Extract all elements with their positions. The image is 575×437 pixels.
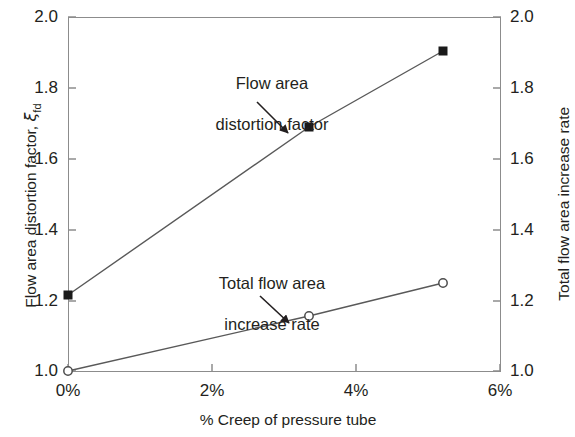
xi-symbol: ξ bbox=[21, 113, 40, 122]
x-tick-label-0: 0% bbox=[38, 382, 98, 399]
y-tick-label-right-1-8: 1.8 bbox=[510, 79, 554, 96]
x-tick-label-4: 4% bbox=[326, 382, 386, 399]
chart-figure: 2.0 1.8 1.6 1.4 1.2 1.0 2.0 1.8 1.6 1.4 … bbox=[0, 0, 575, 437]
annotation-flow-area-distortion-factor: Flow area distortion factor bbox=[186, 52, 358, 155]
y-tick-label-left-1-0: 1.0 bbox=[14, 362, 58, 379]
y-tick-label-right-1-0: 1.0 bbox=[510, 362, 554, 379]
annotation-increase-line-1: Total flow area bbox=[186, 273, 358, 294]
xi-subscript: fd bbox=[31, 103, 43, 112]
annotation-increase-line-2: increase rate bbox=[186, 314, 358, 335]
x-tick-label-2: 2% bbox=[182, 382, 242, 399]
x-axis-title: % Creep of pressure tube bbox=[148, 412, 428, 428]
y-tick-label-right-1-2: 1.2 bbox=[510, 292, 554, 309]
y-tick-label-right-2-0: 2.0 bbox=[510, 8, 554, 25]
y-axis-title-right: Total flow area increase rate bbox=[556, 74, 572, 334]
y-tick-label-left-2-0: 2.0 bbox=[14, 8, 58, 25]
x-tick-label-6: 6% bbox=[470, 382, 530, 399]
y-tick-label-right-1-4: 1.4 bbox=[510, 221, 554, 238]
y-axis-title-left-text: Flow area distortion factor, bbox=[22, 122, 39, 308]
annotation-distortion-line-1: Flow area bbox=[186, 73, 358, 94]
annotation-total-flow-area-increase-rate: Total flow area increase rate bbox=[186, 252, 358, 355]
y-tick-label-right-1-6: 1.6 bbox=[510, 150, 554, 167]
annotation-distortion-line-2: distortion factor bbox=[186, 114, 358, 135]
y-axis-title-left: Flow area distortion factor, ξfd bbox=[23, 76, 42, 336]
